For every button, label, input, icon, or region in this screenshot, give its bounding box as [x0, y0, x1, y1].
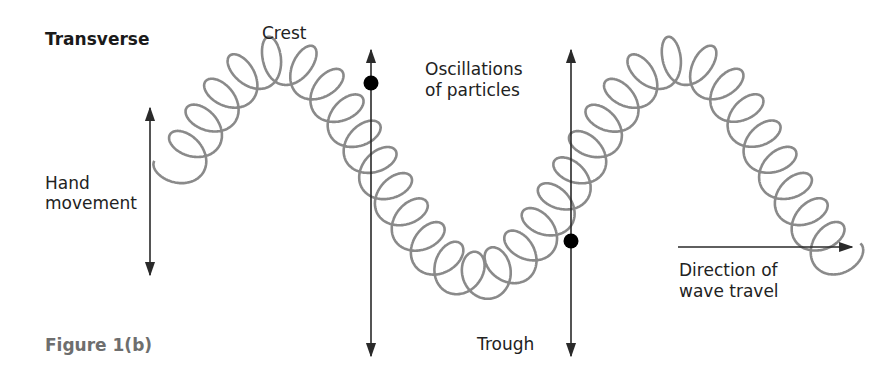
- direction-label-line2: wave travel: [679, 280, 779, 303]
- direction-label-line1: Direction of: [679, 259, 778, 282]
- hand-movement-label-line2: movement: [45, 192, 137, 215]
- diagram-title: Transverse: [45, 29, 149, 49]
- crest-label: Crest: [262, 22, 306, 45]
- oscillations-label-line2: of particles: [425, 79, 520, 102]
- particle-at-trough-side: [564, 234, 579, 249]
- figure-caption: Figure 1(b): [45, 335, 152, 355]
- trough-label: Trough: [477, 333, 534, 356]
- particle-at-crest-side: [364, 76, 379, 91]
- oscillations-label-line1: Oscillations: [425, 58, 523, 81]
